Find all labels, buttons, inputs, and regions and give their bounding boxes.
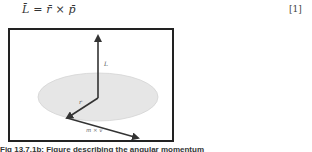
label-L: L bbox=[103, 60, 108, 67]
equation: L̄ = r̄ × p̄ bbox=[22, 3, 76, 16]
angular-momentum-figure: L r m × v bbox=[8, 28, 174, 142]
equation-number: [1] bbox=[289, 4, 302, 14]
label-mv: m × v bbox=[86, 127, 103, 133]
vector-diagram: L r m × v bbox=[10, 30, 176, 144]
figure-caption: Fig 13.7.1b: Figure describing the angul… bbox=[0, 145, 204, 152]
